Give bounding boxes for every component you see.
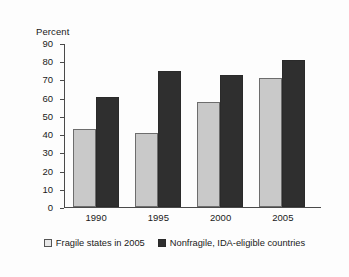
y-tick-label-10: 10 (42, 185, 53, 195)
y-tick-label-0: 0 (48, 203, 53, 213)
y-tick-label-60: 60 (42, 94, 53, 104)
y-tick-60: 60 (60, 99, 64, 100)
bar-chart-figure: Percent 90 80 70 60 50 40 30 20 10 0 (0, 0, 349, 277)
y-tick-0: 0 (60, 208, 64, 209)
legend-label-nonfragile: Nonfragile, IDA-eligible countries (170, 238, 305, 248)
legend-label-fragile: Fragile states in 2005 (56, 238, 145, 248)
x-axis-tick-labels: 1990 1995 2000 2005 (65, 212, 314, 223)
y-tick-label-70: 70 (42, 76, 53, 86)
y-tick-50: 50 (60, 117, 64, 118)
y-tick-label-50: 50 (42, 112, 53, 122)
y-tick-90: 90 (60, 44, 64, 45)
bar-nonfragile-1995 (158, 71, 181, 207)
y-tick-label-80: 80 (42, 57, 53, 67)
bar-group-1995 (127, 44, 189, 207)
bar-group-2000 (189, 44, 251, 207)
y-tick-label-30: 30 (42, 149, 53, 159)
plot-area: 90 80 70 60 50 40 30 20 10 0 (64, 44, 313, 208)
bar-group-1990 (65, 44, 127, 207)
x-tick-label-2005: 2005 (252, 212, 314, 223)
legend-item-fragile: Fragile states in 2005 (44, 238, 145, 248)
legend-item-nonfragile: Nonfragile, IDA-eligible countries (158, 238, 305, 248)
bar-groups (65, 44, 313, 207)
light-square-icon (44, 239, 52, 247)
y-axis-label: Percent (36, 26, 69, 37)
x-tick-label-1995: 1995 (127, 212, 189, 223)
chart-legend: Fragile states in 2005 Nonfragile, IDA-e… (0, 238, 349, 248)
bar-group-2005 (251, 44, 313, 207)
y-tick-label-20: 20 (42, 167, 53, 177)
x-tick-label-1990: 1990 (65, 212, 127, 223)
y-tick-40: 40 (60, 135, 64, 136)
y-tick-30: 30 (60, 153, 64, 154)
dark-square-icon (158, 239, 166, 247)
x-axis-line (64, 207, 321, 208)
bar-fragile-2000 (197, 102, 220, 207)
y-tick-10: 10 (60, 190, 64, 191)
bar-nonfragile-1990 (96, 97, 119, 207)
bar-nonfragile-2000 (220, 75, 243, 207)
bar-fragile-1995 (135, 133, 158, 207)
y-tick-label-90: 90 (42, 39, 53, 49)
bar-fragile-2005 (259, 78, 282, 207)
y-tick-20: 20 (60, 172, 64, 173)
y-tick-80: 80 (60, 62, 64, 63)
y-tick-label-40: 40 (42, 130, 53, 140)
x-tick-label-2000: 2000 (190, 212, 252, 223)
y-tick-70: 70 (60, 80, 64, 81)
bar-nonfragile-2005 (282, 60, 305, 207)
bar-fragile-1990 (73, 129, 96, 207)
